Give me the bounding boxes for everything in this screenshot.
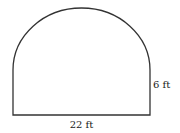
height-label: 6 ft <box>153 79 170 90</box>
composite-figure: 22 ft 6 ft <box>0 0 180 133</box>
width-label: 22 ft <box>70 119 94 130</box>
figure-outline <box>13 8 150 115</box>
